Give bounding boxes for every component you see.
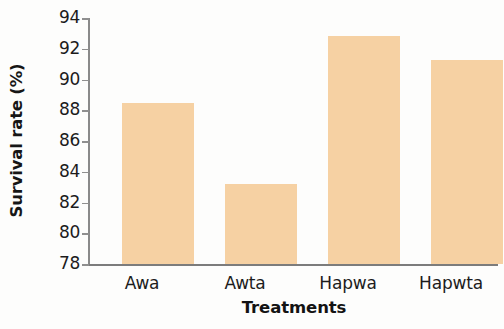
x-axis-tick-label: Awta — [209, 272, 281, 294]
bar — [225, 184, 297, 264]
y-axis-tick-label: 90 — [36, 71, 80, 88]
y-axis-tick-label: 92 — [36, 40, 80, 57]
y-axis-tick-label: 94 — [36, 9, 80, 26]
plot-area — [88, 18, 500, 264]
bar — [122, 103, 194, 264]
y-axis-tick-label: 78 — [36, 255, 80, 272]
x-axis-tick-labels: AwaAwtaHapwaHapwta — [88, 272, 500, 298]
y-axis-tick-label: 80 — [36, 224, 80, 241]
bar-series — [88, 18, 500, 264]
bar — [431, 60, 503, 264]
y-axis-tick-mark — [82, 264, 89, 266]
y-axis-title: Survival rate (%) — [8, 63, 27, 217]
y-axis-tick-label: 86 — [36, 132, 80, 149]
x-axis-tick-label: Hapwa — [312, 272, 384, 294]
y-axis-title-container: Survival rate (%) — [0, 0, 34, 280]
x-axis-tick-label: Awa — [106, 272, 178, 294]
y-axis-tick-labels: 788082848688909294 — [36, 0, 80, 329]
bar — [328, 36, 400, 264]
y-axis-tick-label: 84 — [36, 163, 80, 180]
x-axis-tick-label: Hapwta — [415, 272, 487, 294]
bar-chart-figure: Survival rate (%) 788082848688909294 Awa… — [0, 0, 504, 329]
x-axis-line — [88, 264, 498, 266]
y-axis-tick-label: 88 — [36, 101, 80, 118]
x-axis-title: Treatments — [88, 298, 500, 317]
y-axis-tick-label: 82 — [36, 194, 80, 211]
